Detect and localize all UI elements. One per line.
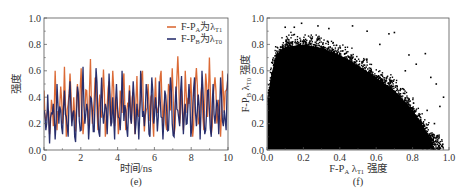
chart-e-x-tick-label: 2 <box>78 152 83 163</box>
chart-f-y-tick-label: 0.8 <box>252 39 265 50</box>
chart-f-x-tick-label: 0.2 <box>297 152 310 163</box>
scatter-points <box>266 22 444 150</box>
chart-f-x-tick-label: 0.4 <box>334 152 347 163</box>
y-axis-label-f: F-PB λT0 强度 <box>239 54 252 112</box>
chart-e-y-tick-label: 0.4 <box>29 92 42 103</box>
chart-e-y-tick-label: 0.2 <box>29 118 42 129</box>
chart-f-x-tick-label: 0.6 <box>370 152 383 163</box>
chart-f-y-tick-label: 0.4 <box>252 92 265 103</box>
chart-f-x-tick-label: 1.0 <box>443 152 456 163</box>
chart-e-x-tick-label: 4 <box>115 152 120 163</box>
scatter-chart-correlation: 0.00.20.40.60.81.00.00.20.40.60.81.0F-PA… <box>235 0 469 193</box>
x-axis-label-f: F-PA λT1 强度 <box>329 162 387 175</box>
legend-label-1: F-PB为λT0 <box>181 33 222 45</box>
caption-f: (f) <box>353 176 364 188</box>
chart-f-y-tick-label: 0.0 <box>252 145 265 156</box>
chart-f-x-tick-label: 0.8 <box>406 152 419 163</box>
chart-e-y-tick-label: 1.0 <box>29 13 42 24</box>
chart-e-y-tick-label: 0.6 <box>29 65 42 76</box>
chart-f-y-tick-label: 1.0 <box>252 13 265 24</box>
legend-label-0: F-PA为λT1 <box>181 21 222 33</box>
chart-f-y-tick-label: 0.6 <box>252 65 265 76</box>
x-axis-label-e: 时间/ns <box>120 162 152 174</box>
chart-e-x-tick-label: 6 <box>152 152 157 163</box>
chart-panel-f: 0.00.20.40.60.81.00.00.20.40.60.81.0F-PA… <box>235 0 469 193</box>
chart-e-x-tick-label: 8 <box>189 152 194 163</box>
caption-e: (e) <box>130 176 142 188</box>
chart-panel-e: 02468100.00.20.40.60.81.0F-PA为λT1F-PB为λT… <box>0 0 235 193</box>
chart-e-x-tick-label: 10 <box>223 152 233 163</box>
chart-f-y-tick-label: 0.2 <box>252 118 265 129</box>
line-chart-intensity-vs-time: 02468100.00.20.40.60.81.0F-PA为λT1F-PB为λT… <box>0 0 235 193</box>
y-axis-label-e: 强度 <box>10 73 22 94</box>
chart-e-y-tick-label: 0.8 <box>29 39 42 50</box>
chart-e-x-tick-label: 0 <box>42 152 47 163</box>
chart-e-y-tick-label: 0.0 <box>29 145 42 156</box>
